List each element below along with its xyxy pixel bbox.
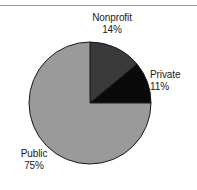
pie-chart-figure: Nonprofit 14% Private 11% Public 75% <box>0 0 197 190</box>
pie-label-private: Private 11% <box>150 69 196 92</box>
pie-label-public-name: Public <box>6 148 62 160</box>
pie-label-nonprofit-name: Nonprofit <box>76 12 148 24</box>
pie-label-public-value: 75% <box>6 160 62 172</box>
pie-label-nonprofit: Nonprofit 14% <box>76 12 148 35</box>
pie-label-nonprofit-value: 14% <box>76 24 148 36</box>
pie-label-public: Public 75% <box>6 148 62 171</box>
pie-label-private-name: Private <box>150 69 196 81</box>
pie-label-private-value: 11% <box>150 81 196 93</box>
